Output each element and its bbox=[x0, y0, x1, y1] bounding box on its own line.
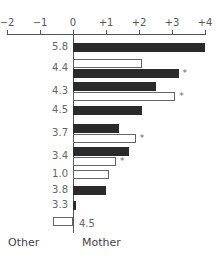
bar bbox=[73, 69, 179, 78]
bar bbox=[73, 82, 156, 91]
x-tick bbox=[40, 30, 41, 35]
x-tick-label: +4 bbox=[198, 17, 213, 28]
row-label: 3.3 bbox=[38, 199, 68, 210]
bar bbox=[73, 59, 142, 68]
row-label: 5.8 bbox=[38, 41, 68, 52]
x-tick-label: +1 bbox=[99, 17, 114, 28]
bar bbox=[73, 134, 136, 143]
bar bbox=[73, 186, 106, 195]
row-label: 4.5 bbox=[38, 104, 68, 115]
row-label: 4.5 bbox=[79, 218, 109, 229]
bar bbox=[73, 124, 119, 133]
row-label: 3.8 bbox=[38, 184, 68, 195]
x-tick-label: 0 bbox=[70, 17, 76, 28]
x-tick-label: +2 bbox=[132, 17, 147, 28]
row-label: 4.3 bbox=[38, 85, 68, 96]
x-tick-label: −1 bbox=[33, 17, 48, 28]
bar bbox=[73, 106, 142, 115]
x-tick bbox=[172, 30, 173, 35]
bar bbox=[73, 170, 109, 179]
bar bbox=[53, 217, 73, 226]
bar bbox=[73, 147, 129, 156]
significance-star: * bbox=[120, 156, 125, 166]
bar bbox=[73, 92, 175, 101]
legend-other: Other bbox=[8, 236, 39, 249]
x-tick-label: +3 bbox=[165, 17, 180, 28]
bar bbox=[73, 157, 116, 166]
legend-mother: Mother bbox=[82, 236, 121, 249]
row-label: 3.4 bbox=[38, 150, 68, 161]
significance-star: * bbox=[183, 68, 188, 78]
row-label: 4.4 bbox=[38, 62, 68, 73]
bar bbox=[73, 43, 205, 52]
row-label: 1.0 bbox=[38, 168, 68, 179]
x-tick bbox=[106, 30, 107, 35]
x-tick-label: −2 bbox=[0, 17, 14, 28]
significance-star: * bbox=[140, 133, 145, 143]
x-tick bbox=[205, 30, 206, 35]
x-tick bbox=[139, 30, 140, 35]
significance-star: * bbox=[179, 91, 184, 101]
row-label: 3.7 bbox=[38, 127, 68, 138]
x-tick bbox=[7, 30, 8, 35]
bar bbox=[73, 201, 76, 210]
